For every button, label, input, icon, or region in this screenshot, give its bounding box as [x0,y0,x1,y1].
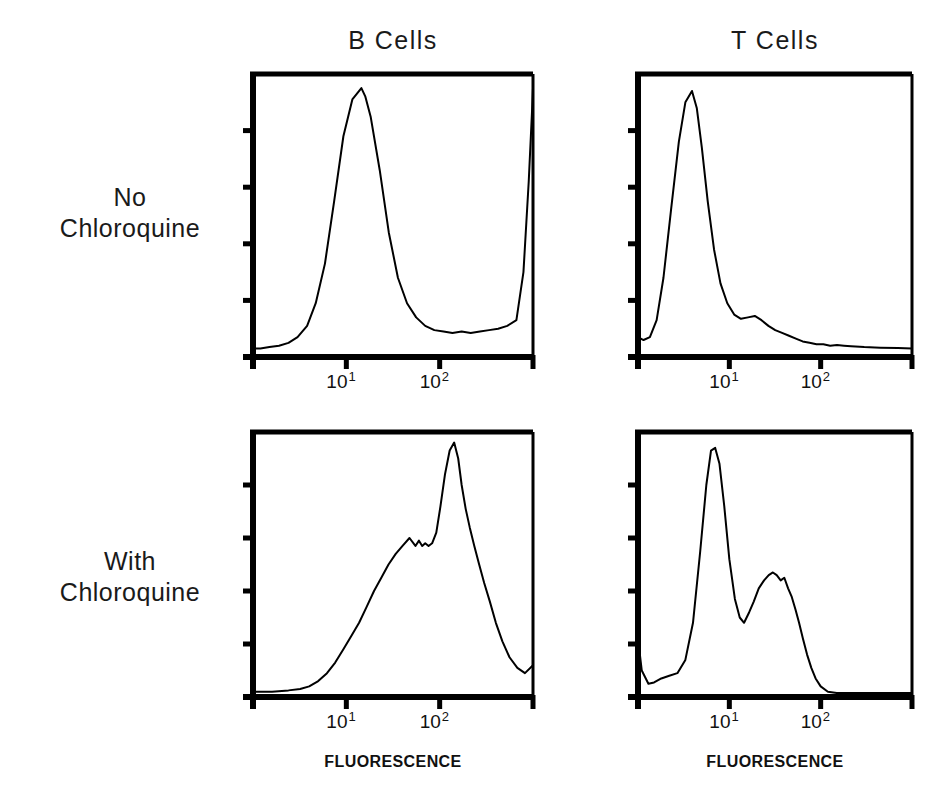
axis-title-fluorescence-left: FLUORESCENCE [253,753,533,771]
row-label-line-2: Chloroquine [16,577,244,608]
histogram-trace [638,448,912,693]
histogram-trace [253,88,533,348]
histogram-plot [253,432,533,697]
tick-label-base: 10 [420,371,441,392]
tick-label-base: 10 [709,371,730,392]
tick-label-base: 10 [326,711,347,732]
row-label-with-chloroquine: With Chloroquine [16,546,244,607]
tick-label-base: 10 [326,371,347,392]
figure-root: B Cells T Cells No Chloroquine With Chlo… [0,0,948,805]
x-axis-tick-label: 101 [709,371,738,393]
x-axis-tick-label: 101 [326,711,355,733]
tick-label-base: 10 [801,371,822,392]
tick-label-exponent: 1 [348,709,355,724]
tick-label-exponent: 1 [348,369,355,384]
x-axis-tick-label: 102 [420,711,449,733]
tick-label-base: 10 [709,711,730,732]
row-label-line-1: With [16,546,244,577]
x-axis-tick-label: 101 [326,371,355,393]
x-axis-tick-label: 102 [801,711,830,733]
tick-label-exponent: 1 [731,369,738,384]
axis-title-fluorescence-right: FLUORESCENCE [638,753,912,771]
tick-label-exponent: 2 [823,369,830,384]
tick-label-exponent: 2 [442,369,449,384]
tick-label-base: 10 [801,711,822,732]
column-title-t-cells: T Cells [638,26,912,55]
tick-label-exponent: 2 [823,709,830,724]
row-label-line-1: No [16,182,244,213]
panel-b-cells-no-chloroquine: 101102 [253,74,533,357]
tick-label-exponent: 1 [731,709,738,724]
histogram-plot [638,74,912,357]
panel-t-cells-with-chloroquine: 101102 [638,432,912,697]
histogram-plot [253,74,533,357]
row-label-line-2: Chloroquine [16,213,244,244]
row-label-no-chloroquine: No Chloroquine [16,182,244,243]
histogram-trace [253,443,533,692]
histogram-trace [638,91,912,349]
panel-t-cells-no-chloroquine: 101102 [638,74,912,357]
panel-b-cells-with-chloroquine: 101102 [253,432,533,697]
x-axis-tick-label: 101 [709,711,738,733]
column-title-b-cells: B Cells [253,26,533,55]
x-axis-tick-label: 102 [420,371,449,393]
x-axis-tick-label: 102 [801,371,830,393]
tick-label-exponent: 2 [442,709,449,724]
histogram-plot [638,432,912,697]
tick-label-base: 10 [420,711,441,732]
